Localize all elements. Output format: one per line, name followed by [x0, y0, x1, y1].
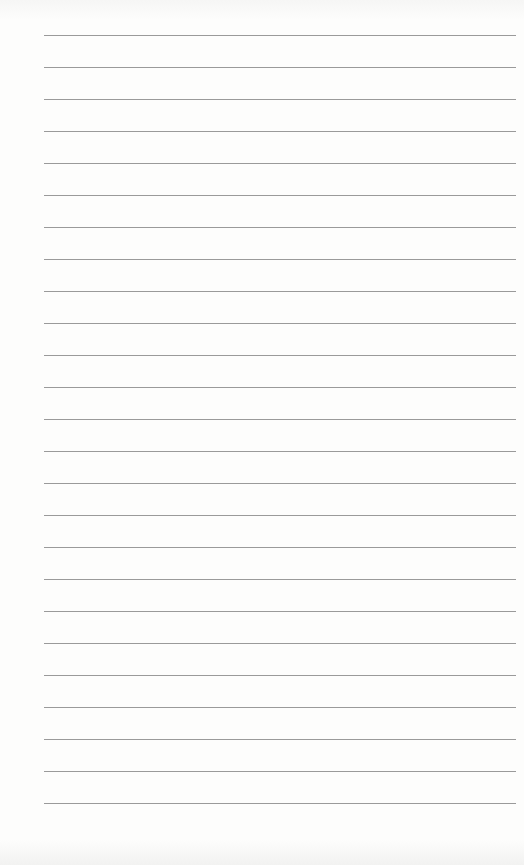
ruled-line	[44, 323, 516, 324]
ruled-line	[44, 451, 516, 452]
ruled-line	[44, 675, 516, 676]
ruled-line	[44, 163, 516, 164]
ruled-line	[44, 419, 516, 420]
ruled-line	[44, 35, 516, 36]
ruled-line	[44, 291, 516, 292]
ruled-line	[44, 611, 516, 612]
ruled-line	[44, 99, 516, 100]
ruled-line	[44, 259, 516, 260]
ruled-line	[44, 131, 516, 132]
ruled-line	[44, 803, 516, 804]
ruled-line	[44, 771, 516, 772]
ruled-line	[44, 547, 516, 548]
ruled-line	[44, 195, 516, 196]
ruled-line	[44, 579, 516, 580]
ruled-line	[44, 387, 516, 388]
ruled-line	[44, 483, 516, 484]
ruled-line	[44, 67, 516, 68]
lined-paper-sheet	[0, 0, 524, 865]
ruled-line	[44, 643, 516, 644]
ruled-line	[44, 707, 516, 708]
ruled-line	[44, 227, 516, 228]
ruled-line	[44, 515, 516, 516]
ruled-line	[44, 355, 516, 356]
ruled-line	[44, 739, 516, 740]
